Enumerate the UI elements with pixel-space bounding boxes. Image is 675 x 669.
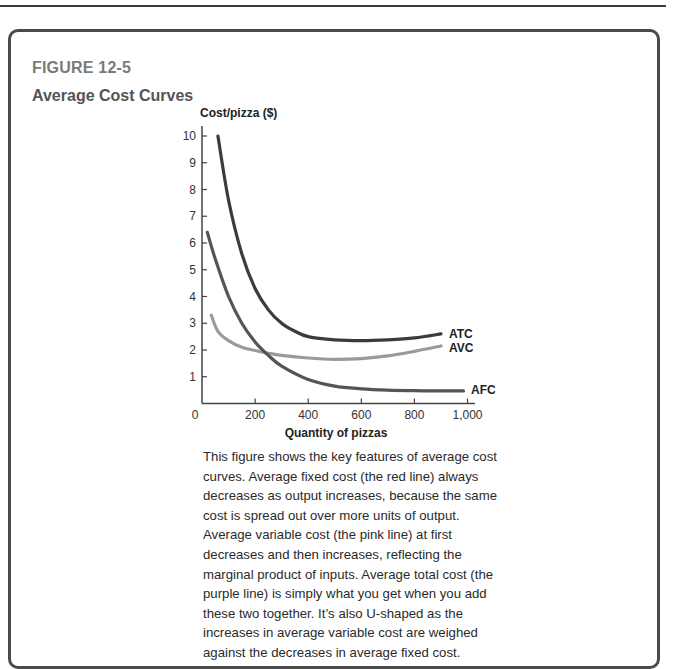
afc-curve (207, 232, 463, 391)
y-tick-label: 7 (189, 209, 196, 223)
y-tick-label: 3 (189, 316, 196, 330)
x-tick-label: 400 (298, 408, 318, 422)
x-axis-title: Quantity of pizzas (285, 426, 388, 440)
afc-label: AFC (471, 383, 496, 397)
x-tick-label: 800 (404, 408, 424, 422)
y-tick-label: 4 (189, 290, 196, 304)
x-tick-label: 0 (192, 408, 199, 422)
y-tick-label: 2 (189, 343, 196, 357)
y-tick-label: 8 (189, 183, 196, 197)
y-axis-ticks: 12345678910 (183, 129, 207, 384)
y-tick-label: 6 (189, 236, 196, 250)
y-tick-label: 10 (183, 129, 197, 143)
x-tick-label: 200 (245, 408, 265, 422)
x-axis-ticks: 02004006008001,000 (192, 399, 483, 423)
avc-label: AVC (449, 341, 474, 355)
cost-curves (207, 136, 463, 391)
y-axis-title: Cost/pizza ($) (200, 106, 277, 120)
atc-curve (218, 136, 441, 341)
x-tick-label: 1,000 (452, 408, 482, 422)
y-tick-label: 9 (189, 156, 196, 170)
y-tick-label: 5 (189, 263, 196, 277)
atc-label: ATC (449, 327, 473, 341)
x-tick-label: 600 (351, 408, 371, 422)
y-tick-label: 1 (189, 370, 196, 384)
figure-caption: This figure shows the key features of av… (203, 447, 503, 663)
series-labels: ATCAVCAFC (449, 327, 496, 397)
